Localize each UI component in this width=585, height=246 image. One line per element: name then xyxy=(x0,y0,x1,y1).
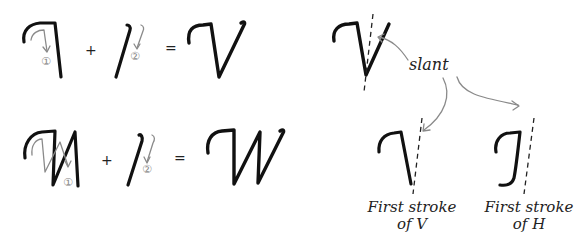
row1-stroke1 xyxy=(24,23,61,77)
stroke-order-1-icon: ① xyxy=(41,55,51,68)
stroke-order-1-icon: ① xyxy=(63,176,73,189)
row2-result-w xyxy=(208,130,284,184)
equals-sign: = xyxy=(165,40,177,56)
caption-first-stroke-h: First stroke of H xyxy=(479,199,579,233)
equals-sign: = xyxy=(174,150,186,166)
plus-sign: + xyxy=(101,152,113,168)
row2-stroke2 xyxy=(128,135,154,185)
plus-sign: + xyxy=(85,42,97,58)
row1-result-v xyxy=(189,22,245,77)
slant-arrows xyxy=(423,77,519,131)
caption-line-2: of V xyxy=(362,216,462,233)
caption-first-stroke-v: First stroke of V xyxy=(362,199,462,233)
first-stroke-v xyxy=(379,118,422,194)
first-stroke-h xyxy=(496,118,534,194)
caption-line-2: of H xyxy=(479,216,579,233)
caption-line-1: First stroke xyxy=(362,199,462,216)
slant-v xyxy=(334,14,408,92)
stroke-order-2-icon: ② xyxy=(130,50,140,63)
caption-line-1: First stroke xyxy=(479,199,579,216)
stroke-order-2-icon: ② xyxy=(142,163,152,176)
slant-label: slant xyxy=(409,56,449,73)
